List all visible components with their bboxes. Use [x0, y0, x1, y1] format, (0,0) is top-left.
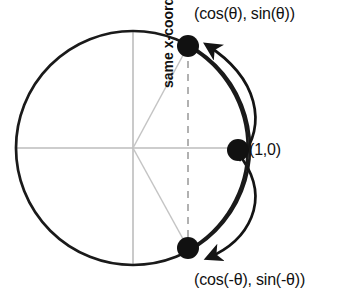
unit-circle-diagram-canvas — [0, 0, 361, 297]
point-right-label: (1,0) — [249, 142, 281, 158]
point-right-dot[interactable] — [227, 139, 249, 161]
radius-to-lower-point — [133, 148, 188, 248]
point-lower-dot[interactable] — [177, 237, 199, 259]
point-lower-label: (cos(-θ), sin(-θ)) — [194, 272, 305, 288]
point-upper-label: (cos(θ), sin(θ)) — [194, 6, 295, 22]
same-x-coordinate-label: same x-coordinate — [161, 0, 175, 88]
unit-circle-figure: (cos(θ), sin(θ)) (cos(-θ), sin(-θ)) (1,0… — [0, 0, 361, 297]
point-upper-dot[interactable] — [177, 35, 199, 57]
